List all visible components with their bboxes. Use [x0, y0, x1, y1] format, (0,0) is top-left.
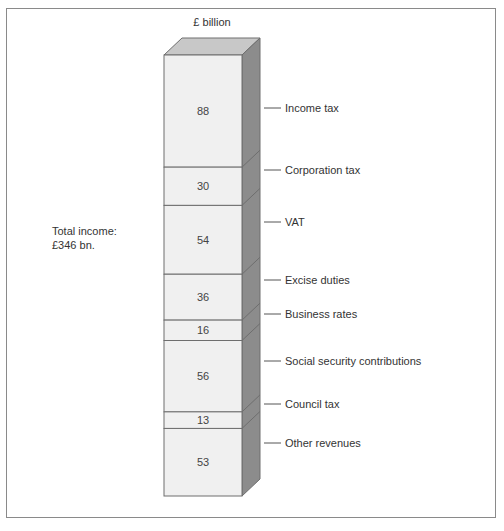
category-label: Other revenues	[285, 437, 361, 449]
category-label: Corporation tax	[285, 164, 361, 176]
segment-value: 56	[197, 370, 209, 382]
segment-value: 30	[197, 180, 209, 192]
category-label: VAT	[285, 216, 305, 228]
segment-value: 54	[197, 234, 209, 246]
category-label: Excise duties	[285, 274, 350, 286]
segment-value: 88	[197, 105, 209, 117]
segment-value: 13	[197, 414, 209, 426]
segment-value: 16	[197, 324, 209, 336]
column-side-face	[242, 38, 260, 496]
category-label: Business rates	[285, 308, 358, 320]
segment-value: 53	[197, 456, 209, 468]
category-label: Income tax	[285, 102, 339, 114]
category-label: Council tax	[285, 398, 340, 410]
segment-value: 36	[197, 291, 209, 303]
stacked-column-chart: 88Income tax30Corporation tax54VAT36Exci…	[0, 0, 504, 531]
category-label: Social security contributions	[285, 355, 422, 367]
